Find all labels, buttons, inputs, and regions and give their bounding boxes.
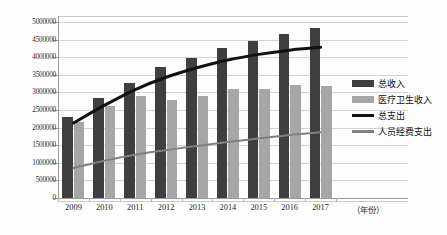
chart-container: 0500000100000015000002000000250000030000… xyxy=(0,0,447,235)
x-tick-mark xyxy=(89,198,90,202)
bar-medical-revenue-2012 xyxy=(167,100,178,198)
x-tick-mark xyxy=(274,198,275,202)
y-tick-label: 4000000 xyxy=(4,53,56,61)
legend-item: 医疗卫生收入 xyxy=(352,92,447,107)
bar-medical-revenue-2015 xyxy=(259,89,270,198)
x-tick-label-2010: 2010 xyxy=(96,203,113,212)
legend-label: 医疗卫生收入 xyxy=(378,93,432,106)
x-tick-mark xyxy=(151,198,152,202)
x-tick-label-2009: 2009 xyxy=(65,203,82,212)
legend-item: 总支出 xyxy=(352,108,447,123)
legend-swatch-icon xyxy=(352,130,374,133)
bar-total-revenue-2010 xyxy=(93,98,104,198)
x-tick-label-2017: 2017 xyxy=(312,203,329,212)
legend-item: 人员经费支出 xyxy=(352,124,447,139)
legend-swatch-icon xyxy=(352,114,374,117)
y-tick-label: 500000 xyxy=(4,176,56,184)
y-tick-label: 5000000 xyxy=(4,18,56,26)
x-tick-mark xyxy=(212,198,213,202)
bar-medical-revenue-2013 xyxy=(198,96,209,198)
bars-layer xyxy=(58,22,336,198)
x-tick-label-2013: 2013 xyxy=(189,203,206,212)
bar-total-revenue-2009 xyxy=(62,117,73,198)
y-tick-label: 2500000 xyxy=(4,106,56,114)
x-tick-mark xyxy=(243,198,244,202)
bar-medical-revenue-2016 xyxy=(290,85,301,198)
chart-legend: 总收入医疗卫生收入总支出人员经费支出 xyxy=(352,76,447,140)
x-axis-line xyxy=(58,198,408,199)
legend-label: 人员经费支出 xyxy=(378,125,432,138)
bar-total-revenue-2015 xyxy=(248,41,259,198)
bar-total-revenue-2014 xyxy=(217,48,228,198)
bar-medical-revenue-2011 xyxy=(136,96,147,198)
bar-medical-revenue-2017 xyxy=(321,86,332,198)
bar-medical-revenue-2010 xyxy=(105,106,116,198)
bar-total-revenue-2011 xyxy=(124,83,135,198)
x-tick-mark xyxy=(120,198,121,202)
y-tick-label: 3500000 xyxy=(4,71,56,79)
bar-total-revenue-2016 xyxy=(279,34,290,198)
legend-label: 总收入 xyxy=(378,77,405,90)
x-tick-mark xyxy=(182,198,183,202)
x-tick-label-2014: 2014 xyxy=(220,203,237,212)
y-tick-label: 3000000 xyxy=(4,88,56,96)
bar-total-revenue-2012 xyxy=(155,67,166,198)
y-tick-label: 2000000 xyxy=(4,124,56,132)
x-tick-label-2016: 2016 xyxy=(281,203,298,212)
legend-swatch-icon xyxy=(352,96,374,103)
legend-label: 总支出 xyxy=(378,109,405,122)
bar-total-revenue-2017 xyxy=(310,28,321,198)
bar-medical-revenue-2009 xyxy=(74,122,85,198)
x-tick-mark xyxy=(305,198,306,202)
x-tick-label-2011: 2011 xyxy=(127,203,143,212)
x-tick-label-2015: 2015 xyxy=(250,203,267,212)
bar-medical-revenue-2014 xyxy=(228,89,239,198)
legend-item: 总收入 xyxy=(352,76,447,91)
y-tick-label: 0 xyxy=(4,194,56,202)
y-axis-tick-labels: 0500000100000015000002000000250000030000… xyxy=(0,0,56,235)
legend-swatch-icon xyxy=(352,80,374,87)
x-tick-mark xyxy=(336,198,337,202)
y-tick-label: 1500000 xyxy=(4,141,56,149)
y-tick-label: 4500000 xyxy=(4,36,56,44)
bar-total-revenue-2013 xyxy=(186,58,197,198)
x-tick-mark xyxy=(58,198,59,202)
y-tick-label: 1000000 xyxy=(4,159,56,167)
x-tick-label-2012: 2012 xyxy=(158,203,175,212)
x-axis-title: （年份） xyxy=(352,203,384,215)
